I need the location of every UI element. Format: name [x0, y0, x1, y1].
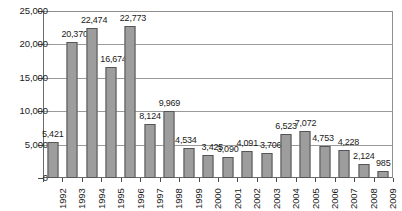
- bar-value-label: 9,969: [159, 98, 178, 108]
- bar-value-label: 7,072: [295, 118, 314, 128]
- bar-value-label: 20,370: [61, 29, 80, 39]
- y-tick-label: 10,000: [2, 105, 48, 116]
- x-tick-mark: [160, 178, 161, 182]
- x-tick-mark: [237, 178, 238, 182]
- bar[interactable]: [164, 111, 175, 178]
- bar[interactable]: [183, 148, 194, 178]
- bar[interactable]: [67, 42, 78, 178]
- x-tick-label: 2002: [251, 188, 262, 209]
- bar-slot: 8,124: [140, 11, 159, 178]
- bar-value-label: 2,124: [353, 151, 372, 161]
- bar-slot: 4,753: [315, 11, 334, 178]
- bar[interactable]: [86, 28, 97, 178]
- y-tick-label: 5,000: [2, 139, 48, 150]
- x-tick-label: 2004: [290, 188, 301, 209]
- y-tick-label: 20,000: [2, 38, 48, 49]
- bar-slot: 3,090: [218, 11, 237, 178]
- x-tick-label: 2009: [387, 188, 398, 209]
- x-tick-mark: [257, 178, 258, 182]
- x-tick-mark: [101, 178, 102, 182]
- x-tick-mark: [82, 178, 83, 182]
- bar-value-label: 4,753: [312, 133, 331, 143]
- bar-slot: 16,674: [101, 11, 120, 178]
- bar-value-label: 8,124: [139, 111, 158, 121]
- bar[interactable]: [106, 67, 117, 178]
- bar[interactable]: [300, 131, 311, 178]
- bar-slot: 2,124: [354, 11, 373, 178]
- bar[interactable]: [319, 146, 330, 178]
- bar-slot: 9,969: [160, 11, 179, 178]
- x-tick-mark: [276, 178, 277, 182]
- bar-slot: 3,706: [257, 11, 276, 178]
- bars-layer: 5,42120,37022,47416,67422,7738,1249,9694…: [43, 11, 393, 178]
- bar-value-label: 22,773: [120, 13, 139, 23]
- x-tick-label: 1999: [193, 188, 204, 209]
- x-tick-mark: [140, 178, 141, 182]
- bar-chart: 05,00010,00015,00020,00025,000 5,42120,3…: [0, 0, 402, 211]
- bar[interactable]: [339, 150, 350, 178]
- bar[interactable]: [222, 157, 233, 178]
- x-axis-labels: 1992199319941995199619971998199920002001…: [43, 183, 393, 211]
- bar[interactable]: [281, 134, 292, 178]
- bar-slot: 5,421: [43, 11, 62, 178]
- x-tick-label: 2006: [329, 188, 340, 209]
- bar-slot: 985: [374, 11, 393, 178]
- bar-value-label: 4,534: [175, 135, 194, 145]
- bar-value-label: 5,421: [42, 129, 61, 139]
- bar-slot: 22,474: [82, 11, 101, 178]
- bar[interactable]: [358, 164, 369, 178]
- bar-value-label: 985: [374, 158, 393, 168]
- bar-slot: 7,072: [296, 11, 315, 178]
- bar-slot: 3,425: [199, 11, 218, 178]
- bar[interactable]: [125, 26, 136, 178]
- x-tick-label: 2003: [271, 188, 282, 209]
- x-tick-mark: [199, 178, 200, 182]
- x-tick-mark: [315, 178, 316, 182]
- bar-value-label: 3,090: [217, 144, 236, 154]
- x-tick-label: 2001: [232, 188, 243, 209]
- y-tick-label: 25,000: [2, 5, 48, 16]
- bar[interactable]: [47, 142, 58, 178]
- bar-value-label: 22,474: [81, 15, 100, 25]
- x-tick-mark: [62, 178, 63, 182]
- bar[interactable]: [378, 171, 389, 178]
- x-tick-label: 2000: [212, 188, 223, 209]
- y-tick-label: 15,000: [2, 72, 48, 83]
- x-tick-label: 2007: [348, 188, 359, 209]
- x-tick-mark: [354, 178, 355, 182]
- x-tick-label: 1992: [57, 188, 68, 209]
- bar-value-label: 16,674: [100, 54, 119, 64]
- x-tick-mark: [218, 178, 219, 182]
- x-tick-label: 1995: [115, 188, 126, 209]
- bar-slot: 22,773: [121, 11, 140, 178]
- bar[interactable]: [144, 124, 155, 178]
- x-tick-label: 1993: [76, 188, 87, 209]
- x-tick-mark: [43, 178, 44, 182]
- bar-value-label: 4,091: [236, 138, 255, 148]
- x-tick-label: 2008: [368, 188, 379, 209]
- x-tick-label: 1998: [173, 188, 184, 209]
- x-tick-mark: [179, 178, 180, 182]
- x-tick-label: 1996: [135, 188, 146, 209]
- bar-slot: 4,091: [237, 11, 256, 178]
- x-tick-label: 2005: [310, 188, 321, 209]
- x-tick-mark: [374, 178, 375, 182]
- x-tick-mark: [296, 178, 297, 182]
- x-tick-mark: [121, 178, 122, 182]
- x-tick-label: 1994: [96, 188, 107, 209]
- bar[interactable]: [203, 155, 214, 178]
- bar[interactable]: [242, 151, 253, 178]
- x-tick-mark: [393, 178, 394, 182]
- bar-slot: 20,370: [62, 11, 81, 178]
- bar-slot: 6,523: [276, 11, 295, 178]
- bar-slot: 4,228: [335, 11, 354, 178]
- bar[interactable]: [261, 153, 272, 178]
- y-tick-label: 0: [2, 172, 48, 183]
- x-tick-label: 1997: [154, 188, 165, 209]
- bar-value-label: 6,523: [275, 121, 294, 131]
- x-tick-mark: [335, 178, 336, 182]
- bar-slot: 4,534: [179, 11, 198, 178]
